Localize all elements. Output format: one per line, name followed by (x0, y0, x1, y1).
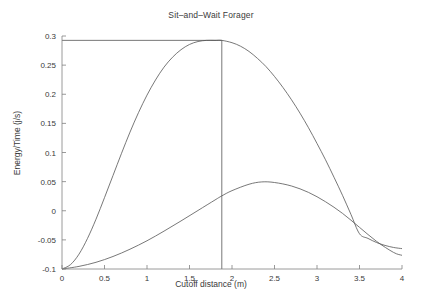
y-tick-label: 0.3 (45, 32, 57, 41)
x-tick-label: 0.5 (99, 274, 111, 283)
x-tick-label: 3 (315, 274, 320, 283)
y-tick-label: -0.1 (42, 265, 56, 274)
plot-area: -0.1-0.0500.050.10.150.20.250.300.511.52… (0, 0, 422, 300)
x-tick-label: 1 (145, 274, 150, 283)
y-tick-label: 0.15 (40, 119, 56, 128)
x-tick-label: 0 (60, 274, 65, 283)
series-line-lower-curve (62, 182, 402, 269)
y-tick-label: 0.05 (40, 178, 56, 187)
y-tick-label: -0.05 (38, 236, 57, 245)
axes-group (62, 36, 402, 269)
x-tick-label: 2 (230, 274, 235, 283)
y-tick-label: 0.25 (40, 61, 56, 70)
annotations-group (62, 40, 222, 269)
tick-labels-group: -0.1-0.0500.050.10.150.20.250.300.511.52… (38, 32, 405, 283)
curves-group (62, 40, 402, 269)
x-tick-label: 2.5 (269, 274, 281, 283)
y-tick-label: 0.1 (45, 149, 57, 158)
x-tick-label: 3.5 (354, 274, 366, 283)
figure-canvas: Sit–and–Wait Forager Energy/Time (j/s) C… (0, 0, 422, 300)
series-line-upper-curve (62, 40, 402, 269)
x-tick-label: 1.5 (184, 274, 196, 283)
y-tick-label: 0.2 (45, 90, 57, 99)
y-tick-label: 0 (52, 207, 57, 216)
x-tick-label: 4 (400, 274, 405, 283)
